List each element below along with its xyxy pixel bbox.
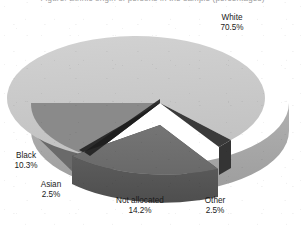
slice-label-other: Other 2.5% (192, 196, 238, 216)
slice-label-asian-name: Asian (41, 180, 61, 189)
slice-label-not-allocated-name: Not allocated (116, 196, 164, 205)
slice-label-asian-value: 2.5% (26, 190, 76, 200)
slice-label-white-name: White (222, 13, 243, 22)
slice-label-white: White 70.5% (205, 13, 259, 33)
slice-label-other-name: Other (205, 196, 225, 205)
slice-label-black: Black 10.3% (2, 151, 50, 171)
slice-label-not-allocated: Not allocated 14.2% (96, 196, 184, 216)
slice-label-other-value: 2.5% (192, 206, 238, 216)
slice-label-black-name: Black (16, 151, 36, 160)
slice-label-black-value: 10.3% (2, 161, 50, 171)
slice-label-not-allocated-value: 14.2% (96, 206, 184, 216)
slice-label-asian: Asian 2.5% (26, 180, 76, 200)
pie-chart: Figure: Ethnic origin of persons in the … (0, 0, 305, 232)
slice-label-white-value: 70.5% (205, 23, 259, 33)
